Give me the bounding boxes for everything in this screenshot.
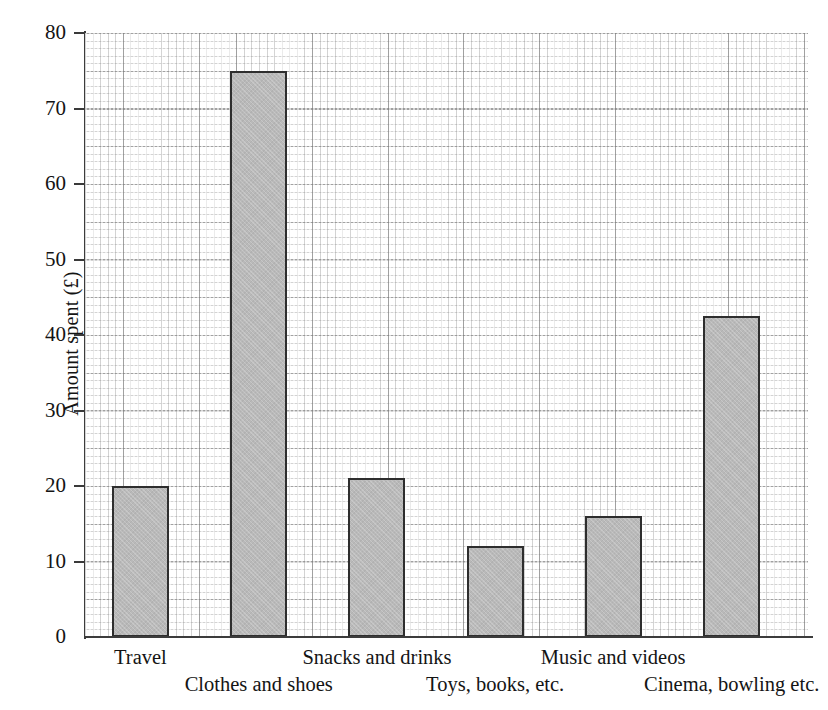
gridlines: [85, 33, 808, 637]
bar-chart: Amount spent (£) 80706050403020100 Trave…: [0, 0, 828, 710]
bar-snacks-and-drinks: [348, 478, 405, 637]
x-axis-label-snacks-and-drinks: Snacks and drinks: [302, 645, 451, 669]
x-axis-label-travel: Travel: [114, 645, 167, 669]
plot-area: [85, 33, 808, 637]
y-axis-tick-label: 30: [20, 400, 66, 421]
bar-music-and-videos: [585, 516, 642, 637]
x-axis-label-cinema-bowling-etc: Cinema, bowling etc.: [644, 672, 819, 696]
bar-travel: [112, 486, 169, 637]
y-axis-tick-label: 80: [20, 22, 66, 43]
x-axis-label-clothes-and-shoes: Clothes and shoes: [185, 672, 333, 696]
y-axis-tick-label: 70: [20, 98, 66, 119]
y-axis-tick-label: 10: [20, 551, 66, 572]
x-axis-label-toys-books-etc: Toys, books, etc.: [426, 672, 564, 696]
y-axis-tick-label: 0: [20, 626, 66, 647]
bar-clothes-and-shoes: [230, 71, 287, 637]
bar-cinema-bowling-etc: [703, 316, 760, 637]
x-axis-label-music-and-videos: Music and videos: [541, 645, 686, 669]
y-axis-tick-label: 50: [20, 249, 66, 270]
y-axis-tick-label: 60: [20, 173, 66, 194]
y-axis-tick-label: 20: [20, 475, 66, 496]
y-axis-tick-label: 40: [20, 324, 66, 345]
bar-toys-books-etc: [467, 546, 524, 637]
x-axis-line: [84, 636, 813, 638]
